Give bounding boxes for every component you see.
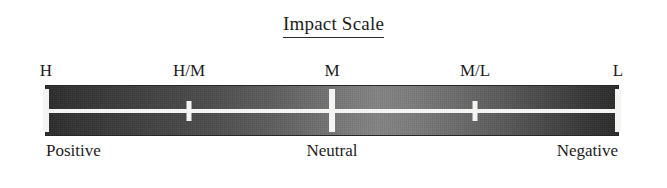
scale-tick-l (615, 89, 621, 132)
anchor-label-positive: Positive (46, 140, 101, 162)
figure-title: Impact Scale (283, 12, 384, 38)
anchor-label-row: Positive Neutral Negative (46, 140, 618, 166)
scale-block: H H/M M M/L L Positive Neutral Negative (46, 60, 618, 166)
impact-scale-figure: Impact Scale H H/M M M/L L Positive Neut… (0, 0, 667, 188)
tick-label-h: H (40, 60, 52, 81)
tick-label-ml: M/L (460, 60, 490, 81)
anchor-label-neutral: Neutral (307, 140, 358, 162)
gradient-scale-bar (46, 86, 618, 135)
scale-tick-ml (473, 101, 478, 121)
figure-title-container: Impact Scale (0, 12, 667, 38)
tick-label-m: M (324, 60, 339, 81)
tick-label-hm: H/M (173, 60, 205, 81)
tick-label-l: L (613, 60, 623, 81)
anchor-label-negative: Negative (557, 140, 618, 162)
scale-tick-m (329, 89, 335, 132)
tick-label-row: H H/M M M/L L (46, 60, 618, 86)
scale-tick-h (43, 89, 49, 132)
scale-tick-hm (187, 101, 192, 121)
